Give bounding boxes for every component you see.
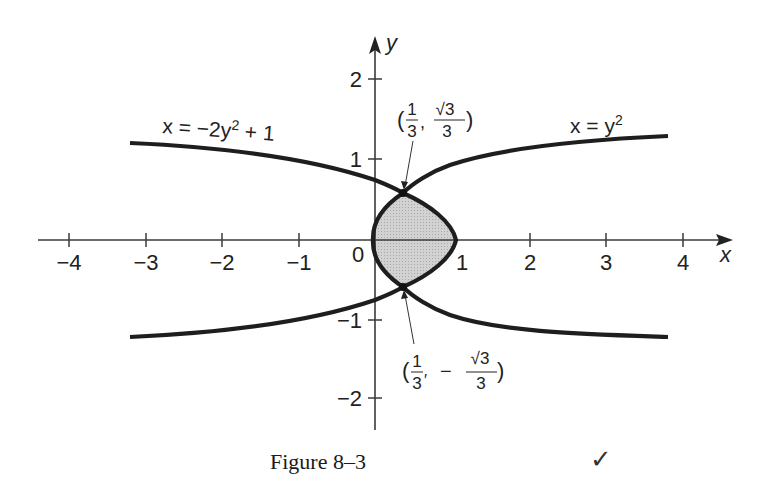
svg-text:3: 3 — [412, 374, 421, 393]
svg-text:): ) — [466, 107, 473, 132]
svg-text:): ) — [497, 358, 504, 383]
svg-text:3: 3 — [407, 122, 416, 141]
svg-text:(: ( — [402, 358, 410, 383]
x-tick-label: 2 — [524, 250, 536, 275]
x-tick-label: −2 — [209, 250, 234, 275]
svg-text:(: ( — [397, 107, 405, 132]
equation-label-right: x = y2 — [570, 112, 623, 137]
svg-text:−: − — [440, 360, 452, 382]
svg-text:1: 1 — [412, 352, 421, 371]
x-axis-label: x — [719, 242, 732, 267]
y-tick-label: 1 — [350, 147, 362, 172]
x-tick-label: −1 — [286, 250, 311, 275]
checkmark-icon: ✓ — [590, 444, 612, 474]
intersection-point-lower — [399, 283, 407, 291]
equation-label-left: x = −2y2 + 1 — [162, 112, 276, 145]
svg-text:3: 3 — [476, 374, 485, 393]
svg-text:√3: √3 — [436, 100, 455, 119]
annotation-upper-point: ( 1 3 , √3 3 ) — [397, 100, 473, 190]
svg-text:′: ′ — [424, 372, 427, 389]
y-tick-label: 2 — [350, 67, 362, 92]
arrow-pointer-lower — [405, 295, 414, 344]
x-tick-label: 4 — [677, 250, 689, 275]
origin-label: 0 — [352, 242, 364, 267]
svg-text:3: 3 — [442, 122, 451, 141]
x-tick-label: 1 — [456, 250, 468, 275]
x-tick-label: −3 — [133, 250, 158, 275]
y-tick-label: −2 — [337, 386, 362, 411]
annotation-lower-point: ( 1 3 ′ − √3 3 ) — [401, 290, 504, 393]
svg-text:,: , — [420, 112, 425, 132]
arrow-pointer-upper — [405, 141, 413, 186]
y-axis-label: y — [384, 30, 399, 55]
figure-8-3: −4 −3 −2 −1 1 2 3 4 0 x 2 1 −1 −2 y x = … — [0, 0, 767, 500]
intersection-point-upper — [399, 189, 407, 197]
svg-text:1: 1 — [407, 100, 416, 119]
svg-text:√3: √3 — [471, 349, 490, 368]
figure-caption: Figure 8–3 — [270, 449, 366, 474]
x-tick-label: 3 — [600, 250, 612, 275]
x-tick-label: −4 — [56, 250, 81, 275]
